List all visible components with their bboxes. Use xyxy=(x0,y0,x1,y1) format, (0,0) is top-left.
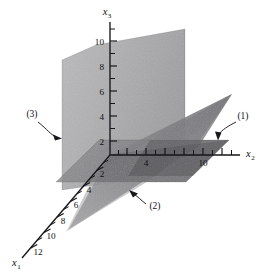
callout-3-label: (3) xyxy=(26,109,37,120)
x1-tick-6: 6 xyxy=(74,200,79,210)
x1-tick-10: 10 xyxy=(46,231,56,241)
x3-tick-6: 6 xyxy=(99,87,104,97)
x3-tick-4: 4 xyxy=(99,112,104,122)
x1-tick-8: 8 xyxy=(61,216,66,226)
x2-tick-10: 10 xyxy=(198,158,208,168)
x1-tick-12: 12 xyxy=(33,247,43,257)
x1-tick-2: 2 xyxy=(100,169,105,179)
figure-3d-planes: 2 4 6 8 10 x3 4 10 x2 xyxy=(0,0,267,272)
x1-tick-4: 4 xyxy=(87,185,92,195)
x3-tick-8: 8 xyxy=(99,62,104,72)
x3-tick-10: 10 xyxy=(95,37,105,47)
figure-canvas: 2 4 6 8 10 x3 4 10 x2 xyxy=(0,0,267,272)
callout-1-label: (1) xyxy=(237,111,248,122)
x2-tick-4: 4 xyxy=(144,158,149,168)
callout-2-label: (2) xyxy=(149,201,160,212)
x3-tick-2: 2 xyxy=(99,137,104,147)
